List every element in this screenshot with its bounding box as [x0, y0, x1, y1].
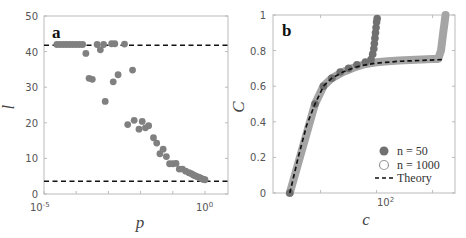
- panel-b-xlabel: c: [362, 210, 370, 229]
- data-point: [163, 153, 170, 160]
- figure: 01020304050 a p l 10-5 100 00.20.40.60.8…: [0, 0, 466, 238]
- panel-a-xtick-min: 10-5: [30, 201, 50, 213]
- data-point: [115, 71, 122, 78]
- a-ytick-label: 20: [25, 118, 38, 129]
- legend-n1000-marker: [380, 161, 389, 170]
- data-point: [79, 41, 86, 48]
- panel-a-xtick-max: 100: [196, 201, 213, 213]
- data-point: [82, 50, 89, 57]
- data-point: [145, 122, 152, 129]
- b-ytick-label: 1: [260, 10, 266, 21]
- panel-a-plot: 01020304050 a p l 10-5 100: [0, 11, 228, 232]
- panel-a-ylabel: l: [0, 104, 18, 109]
- panel-a-label: a: [52, 23, 61, 42]
- panel-b-plot: 00.20.40.60.81 b c C 102 n = 50 n = 1000…: [229, 10, 455, 229]
- b-ytick-label: 0.8: [250, 46, 266, 57]
- a-ytick-label: 0: [32, 189, 38, 200]
- b-ytick-label: 0.6: [250, 81, 266, 92]
- data-point: [160, 146, 167, 153]
- legend-n50-marker: [380, 147, 389, 156]
- panel-b-ylabel: C: [229, 101, 248, 113]
- data-point: [89, 76, 96, 83]
- b-ytick-label: 0.4: [250, 117, 266, 128]
- legend-theory-label: Theory: [397, 171, 432, 185]
- legend-n50-label: n = 50: [397, 144, 428, 158]
- legend-n1000-label: n = 1000: [397, 158, 440, 172]
- data-point: [110, 78, 117, 85]
- data-point: [202, 176, 209, 183]
- data-point: [129, 67, 136, 74]
- b-ytick-label: 0.2: [250, 152, 266, 163]
- data-point: [100, 41, 107, 48]
- b-ytick-label: 0: [260, 188, 266, 199]
- a-ytick-label: 40: [25, 47, 38, 58]
- data-point: [131, 117, 138, 124]
- data-point: [102, 98, 109, 105]
- data-point: [124, 121, 131, 128]
- panel-a-xlabel: p: [135, 213, 145, 232]
- data-point: [136, 126, 143, 133]
- data-point: [173, 160, 180, 167]
- a-ytick-label: 30: [25, 82, 38, 93]
- panel-b-xtick: 102: [377, 196, 394, 208]
- data-point: [111, 40, 118, 47]
- data-point-n50: [373, 15, 381, 23]
- a-ytick-label: 50: [25, 11, 38, 22]
- data-point: [153, 140, 160, 147]
- data-point: [139, 118, 146, 125]
- a-ytick-label: 10: [25, 153, 38, 164]
- data-point: [121, 41, 128, 48]
- panel-b-label: b: [282, 21, 291, 40]
